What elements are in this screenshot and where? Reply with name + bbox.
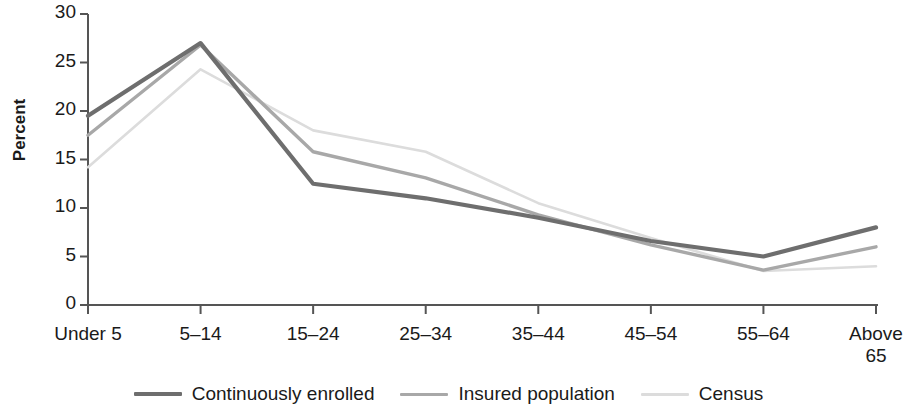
legend-item[interactable]: Insured population xyxy=(400,383,614,405)
legend-item[interactable]: Census xyxy=(641,383,763,405)
legend-label: Continuously enrolled xyxy=(192,383,375,405)
legend-item[interactable]: Continuously enrolled xyxy=(134,383,375,405)
legend-label: Census xyxy=(699,383,763,405)
chart-legend: Continuously enrolledInsured populationC… xyxy=(0,383,897,405)
series-line-census xyxy=(88,69,876,271)
series-line-continuously-enrolled xyxy=(88,43,876,256)
legend-swatch-icon xyxy=(134,392,182,396)
legend-label: Insured population xyxy=(458,383,614,405)
series-line-insured-population xyxy=(88,45,876,270)
legend-swatch-icon xyxy=(641,393,689,396)
legend-swatch-icon xyxy=(400,393,448,396)
